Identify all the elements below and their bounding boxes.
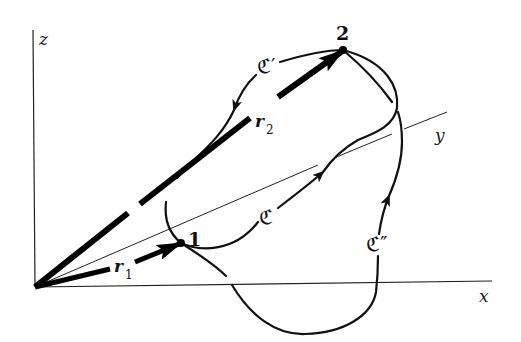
svg-text:r: r — [114, 256, 124, 276]
curve-c-double-prime-label: ℭ″ — [366, 232, 387, 256]
vector-r1 — [35, 244, 179, 287]
r1-label: r 1 — [114, 256, 133, 282]
curve-c-prime-label: ℭ′ — [257, 54, 276, 78]
vector-r2 — [35, 52, 341, 287]
y-axis — [35, 112, 447, 287]
r2-label: r 2 — [255, 111, 274, 137]
svg-text:1: 1 — [125, 268, 133, 282]
y-axis-label: y — [434, 125, 445, 145]
point-1-label: 1 — [188, 228, 201, 250]
svg-text:r: r — [255, 111, 265, 131]
curve-c-label: ℭ — [259, 205, 273, 229]
z-axis-label: z — [38, 29, 49, 49]
curve-c-prime — [166, 50, 343, 243]
x-axis-label: x — [479, 286, 489, 306]
z-axis — [33, 30, 35, 287]
curve-c-double-prime — [181, 50, 402, 334]
x-axis — [35, 281, 492, 287]
path-independence-diagram: z x y 1 2 r 1 r 2 ℭ ℭ′ ℭ″ — [0, 0, 521, 342]
point-1 — [177, 239, 185, 247]
point-2 — [339, 46, 347, 54]
point-2-label: 2 — [336, 22, 349, 44]
svg-text:2: 2 — [266, 123, 274, 137]
